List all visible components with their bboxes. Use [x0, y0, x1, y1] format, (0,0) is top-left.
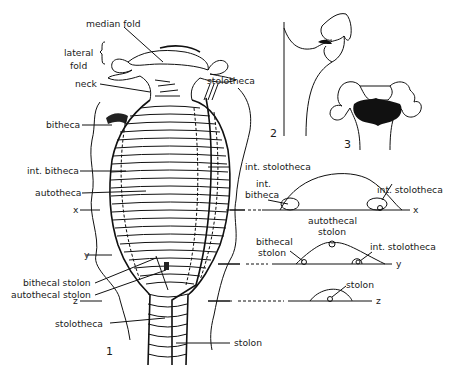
label-axis-z-left: z	[73, 295, 78, 306]
bitheca-dark-area	[106, 113, 128, 124]
panel-number-2: 2	[270, 127, 277, 140]
label-bitheca: bitheca	[46, 119, 80, 130]
body-outline-right	[186, 100, 230, 365]
label-z-stolon: stolon	[346, 279, 374, 290]
label-autotheca: autotheca	[35, 187, 81, 198]
label-stolon-bottom: stolon	[234, 337, 262, 348]
stolotheca-strands	[204, 84, 218, 100]
autothecal-stolon-mark	[164, 262, 169, 270]
left-envelope-outline	[91, 102, 130, 340]
label-axis-z-right: z	[376, 295, 381, 306]
graptolite-anatomy-figure: median fold lateral fold neck stolotheca…	[0, 0, 458, 373]
label-int-bitheca: int. bitheca	[27, 165, 79, 176]
panel-2-profile	[284, 14, 351, 136]
label-y-autothecal-stolon: stolon	[318, 226, 346, 237]
label-axis-x-left: x	[73, 204, 79, 215]
label-neck: neck	[75, 78, 98, 89]
panel-number-3: 3	[344, 138, 351, 151]
neck-ridges	[155, 80, 180, 96]
label-autothecal-stolon: autothecal stolon	[11, 289, 91, 300]
label-axis-y-right: y	[396, 258, 402, 269]
label-y-int-stolotheca: int. stolotheca	[370, 241, 436, 252]
lateral-fold-left	[108, 59, 140, 80]
label-y-autothecal: autothecal	[308, 215, 357, 226]
label-y-bithecal: bithecal	[256, 236, 293, 247]
panel-number-1: 1	[106, 345, 113, 358]
label-lateral-fold-2: fold	[70, 60, 87, 71]
cross-section-y	[218, 241, 392, 265]
label-int-stolotheca: int. stolotheca	[245, 161, 311, 172]
label-median-fold: median fold	[86, 18, 141, 29]
label-axis-y-left: y	[84, 249, 90, 260]
label-lateral-fold-1: lateral	[64, 47, 93, 58]
label-stolotheca-top: stolotheca	[207, 75, 255, 86]
dashed-line-left	[121, 120, 140, 280]
label-x-bitheca: bitheca	[245, 189, 279, 200]
panel-3-dark-area	[353, 98, 401, 126]
label-stolotheca-bottom: stolotheca	[55, 318, 103, 329]
label-axis-x-right: x	[413, 204, 419, 215]
body-outline-left	[110, 100, 150, 365]
median-fold-shape	[128, 50, 208, 70]
label-bithecal-stolon: bithecal stolon	[23, 277, 91, 288]
label-x-int-1: int.	[256, 178, 271, 189]
label-x-int-stolotheca: int. stolotheca	[377, 184, 443, 195]
label-y-bithecal-stolon: stolon	[258, 247, 286, 258]
